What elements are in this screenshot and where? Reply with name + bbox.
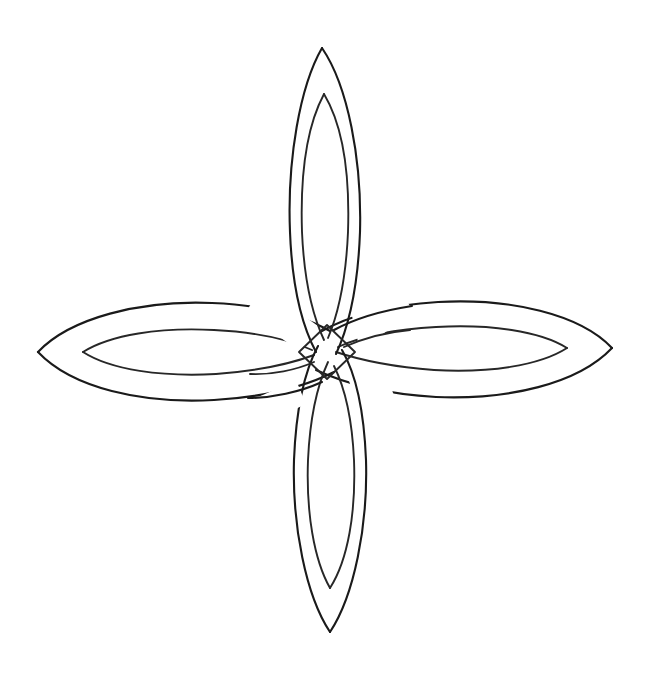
artwork-canvas: Celtic Four-Petal Knot line-drawing hand… <box>0 0 647 676</box>
celtic-knot-drawing <box>0 0 647 676</box>
